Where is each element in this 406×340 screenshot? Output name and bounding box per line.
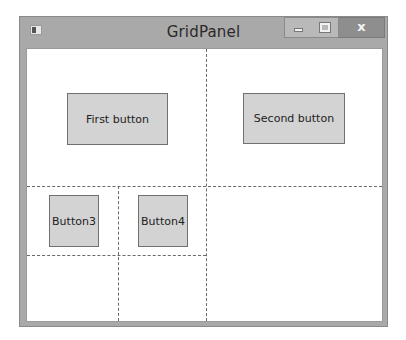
button3[interactable]: Button3 <box>49 195 99 247</box>
second-button[interactable]: Second button <box>243 93 345 144</box>
grid-line-horizontal-top <box>27 186 382 187</box>
button4[interactable]: Button4 <box>138 195 188 247</box>
title-bar[interactable]: GridPanel x <box>20 17 387 48</box>
window: GridPanel x First button Second button B… <box>19 16 388 327</box>
grid-line-vertical-main <box>206 49 207 321</box>
second-button-label: Second button <box>254 112 334 125</box>
maximize-button[interactable] <box>312 17 339 38</box>
maximize-icon <box>320 23 330 32</box>
grid-line-horizontal-bottom <box>27 255 206 256</box>
close-icon: x <box>339 19 384 34</box>
first-button[interactable]: First button <box>67 93 168 145</box>
minimize-button[interactable] <box>284 17 313 38</box>
close-button[interactable]: x <box>339 17 385 38</box>
button3-label: Button3 <box>52 215 96 228</box>
first-button-label: First button <box>86 113 149 126</box>
button4-label: Button4 <box>141 215 185 228</box>
minimize-icon <box>294 28 303 32</box>
grid-panel: First button Second button Button3 Butto… <box>26 48 383 322</box>
grid-line-vertical-sub <box>118 186 119 321</box>
